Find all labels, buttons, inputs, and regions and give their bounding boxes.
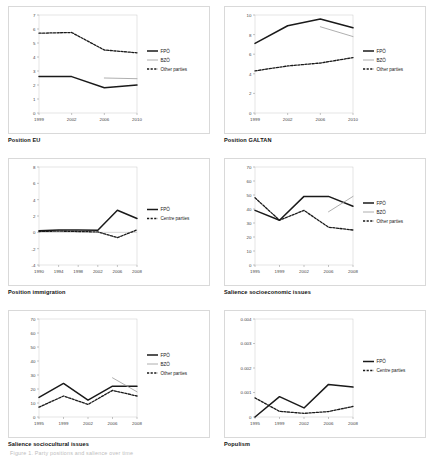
svg-text:FPÖ: FPÖ [377, 358, 387, 364]
svg-text:10: 10 [247, 13, 252, 18]
panel-caption: Salience socioeconomic issues [224, 289, 426, 295]
svg-text:2002: 2002 [283, 117, 293, 122]
svg-text:60: 60 [31, 331, 36, 336]
svg-text:1998: 1998 [73, 269, 83, 274]
svg-text:2002: 2002 [83, 421, 93, 426]
plot-card: 01020304050607019951999200220062008FPÖBZ… [8, 310, 210, 438]
svg-text:4: 4 [249, 72, 252, 77]
svg-text:1999: 1999 [250, 117, 260, 122]
svg-text:1995: 1995 [250, 269, 260, 274]
svg-text:30: 30 [31, 373, 36, 378]
svg-text:0: 0 [33, 415, 36, 420]
chart-position-galtan: 02468101999200220062010FPÖBZÖOther parti… [225, 7, 425, 133]
svg-text:BZÖ: BZÖ [161, 361, 171, 367]
svg-text:0: 0 [249, 263, 252, 268]
svg-text:2010: 2010 [348, 117, 358, 122]
svg-text:0.004: 0.004 [241, 317, 253, 322]
svg-text:50: 50 [31, 345, 36, 350]
panel-caption: Position GALTAN [224, 137, 426, 143]
svg-text:20: 20 [31, 387, 36, 392]
panel-caption: Position EU [8, 137, 210, 143]
svg-text:1995: 1995 [250, 421, 260, 426]
svg-text:2008: 2008 [348, 421, 358, 426]
svg-text:2: 2 [33, 214, 36, 219]
svg-text:2006: 2006 [113, 269, 123, 274]
svg-text:BZÖ: BZÖ [377, 57, 387, 63]
svg-text:Other parties: Other parties [377, 219, 404, 224]
svg-text:Other parties: Other parties [161, 371, 188, 376]
plot-card: 01020304050607019951999200220062008FPÖBZ… [224, 158, 426, 286]
svg-text:0.001: 0.001 [241, 390, 253, 395]
svg-text:60: 60 [247, 179, 252, 184]
svg-text:6: 6 [249, 52, 252, 57]
panel-caption: Position immigration [8, 289, 210, 295]
svg-text:5: 5 [33, 41, 36, 46]
svg-text:40: 40 [247, 207, 252, 212]
svg-text:30: 30 [247, 221, 252, 226]
svg-text:50: 50 [247, 193, 252, 198]
plot-card: 012345671999200220062010FPÖBZÖOther part… [8, 6, 210, 134]
svg-text:-2: -2 [32, 247, 36, 252]
svg-text:Centre parties: Centre parties [161, 216, 191, 221]
svg-text:-4: -4 [32, 263, 36, 268]
svg-text:1995: 1995 [34, 421, 44, 426]
svg-text:2006: 2006 [324, 421, 334, 426]
svg-text:7: 7 [33, 13, 36, 18]
panel-caption: Populism [224, 441, 426, 447]
panel-position-galtan: 02468101999200220062010FPÖBZÖOther parti… [224, 6, 426, 143]
panel-position-immigration: -4-202468199019941998200220062008FPÖCent… [8, 158, 210, 295]
chart-position-eu: 012345671999200220062010FPÖBZÖOther part… [9, 7, 209, 133]
figure-footer-note: Figure 1. Party positions and salience o… [10, 450, 133, 456]
chart-position-immigration: -4-202468199019941998200220062008FPÖCent… [9, 159, 209, 285]
svg-text:2010: 2010 [132, 117, 142, 122]
panel-position-eu: 012345671999200220062010FPÖBZÖOther part… [8, 6, 210, 143]
svg-text:2: 2 [249, 91, 252, 96]
svg-text:2006: 2006 [108, 421, 118, 426]
svg-text:8: 8 [249, 33, 252, 38]
plot-card: 00.0010.0020.0030.0041995199920022006200… [224, 310, 426, 438]
panel-salience-socioeconomic: 01020304050607019951999200220062008FPÖBZ… [224, 158, 426, 295]
svg-text:3: 3 [33, 69, 36, 74]
svg-text:1999: 1999 [59, 421, 69, 426]
svg-text:1: 1 [33, 97, 36, 102]
svg-text:1999: 1999 [275, 421, 285, 426]
svg-text:20: 20 [247, 235, 252, 240]
svg-text:4: 4 [33, 55, 36, 60]
svg-text:2002: 2002 [93, 269, 103, 274]
svg-text:2008: 2008 [348, 269, 358, 274]
svg-text:BZÖ: BZÖ [377, 209, 387, 215]
svg-text:70: 70 [247, 165, 252, 170]
figure-sheet: 012345671999200220062010FPÖBZÖOther part… [0, 0, 440, 459]
svg-text:4: 4 [33, 198, 36, 203]
svg-text:2006: 2006 [315, 117, 325, 122]
svg-text:2002: 2002 [67, 117, 77, 122]
chart-salience-socioeconomic: 01020304050607019951999200220062008FPÖBZ… [225, 159, 425, 285]
svg-text:FPÖ: FPÖ [161, 48, 171, 54]
svg-text:0: 0 [249, 111, 252, 116]
svg-text:Centre parties: Centre parties [377, 368, 407, 373]
svg-text:6: 6 [33, 27, 36, 32]
chart-populism: 00.0010.0020.0030.0041995199920022006200… [225, 311, 425, 437]
svg-text:2008: 2008 [132, 421, 142, 426]
svg-text:2008: 2008 [132, 269, 142, 274]
panel-salience-sociocultural: 01020304050607019951999200220062008FPÖBZ… [8, 310, 210, 447]
svg-text:2002: 2002 [299, 421, 309, 426]
svg-text:0.003: 0.003 [241, 341, 253, 346]
svg-text:0: 0 [249, 415, 252, 420]
svg-text:0: 0 [33, 230, 36, 235]
panel-populism: 00.0010.0020.0030.0041995199920022006200… [224, 310, 426, 447]
svg-text:6: 6 [33, 181, 36, 186]
svg-text:0: 0 [33, 111, 36, 116]
svg-text:10: 10 [247, 249, 252, 254]
svg-text:1994: 1994 [54, 269, 64, 274]
panel-caption: Salience sociocultural issues [8, 441, 210, 447]
chart-salience-sociocultural: 01020304050607019951999200220062008FPÖBZ… [9, 311, 209, 437]
svg-text:FPÖ: FPÖ [161, 352, 171, 358]
svg-text:Other parties: Other parties [161, 67, 188, 72]
svg-text:1999: 1999 [275, 269, 285, 274]
svg-text:BZÖ: BZÖ [161, 57, 171, 63]
svg-text:2002: 2002 [299, 269, 309, 274]
svg-text:FPÖ: FPÖ [161, 206, 171, 212]
svg-text:2006: 2006 [99, 117, 109, 122]
svg-text:FPÖ: FPÖ [377, 200, 387, 206]
